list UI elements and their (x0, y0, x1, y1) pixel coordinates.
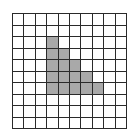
grid-cell (80, 25, 91, 37)
grid-cell (23, 25, 34, 37)
grid-cell (92, 71, 103, 83)
grid-cell (46, 13, 57, 25)
grid-cell-shaded (69, 59, 80, 71)
grid-cell (12, 36, 23, 48)
grid-cell (58, 117, 69, 129)
grid-cell (115, 59, 126, 71)
grid-cell (12, 13, 23, 25)
grid-cell (69, 48, 80, 60)
grid-cell (115, 48, 126, 60)
grid-cell (92, 48, 103, 60)
grid-cell (23, 71, 34, 83)
grid-cell (103, 13, 114, 25)
grid-cell (80, 13, 91, 25)
grid-cell (12, 105, 23, 117)
grid-cell (23, 48, 34, 60)
grid-cell (69, 117, 80, 129)
grid-cell (12, 25, 23, 37)
grid-cell (92, 94, 103, 106)
grid-cell (115, 25, 126, 37)
grid-cell-shaded (80, 82, 91, 94)
grid-cell (35, 25, 46, 37)
grid-cell (103, 36, 114, 48)
grid-cell (35, 48, 46, 60)
grid-cell (80, 36, 91, 48)
grid-cell (12, 48, 23, 60)
grid-cell-shaded (46, 82, 57, 94)
grid-cell-shaded (69, 82, 80, 94)
grid-cell (12, 94, 23, 106)
grid-cell (35, 117, 46, 129)
grid-cell (80, 48, 91, 60)
grid-cell (69, 25, 80, 37)
grid-cell-shaded (58, 48, 69, 60)
grid-cell-shaded (58, 59, 69, 71)
grid-cell (12, 82, 23, 94)
grid-cell (58, 25, 69, 37)
grid-cell-shaded (58, 82, 69, 94)
grid-cell (23, 36, 34, 48)
grid-cell (103, 25, 114, 37)
grid-cell (35, 82, 46, 94)
grid-cell (23, 105, 34, 117)
grid-cell (69, 36, 80, 48)
grid-cell (103, 82, 114, 94)
grid-cell (69, 105, 80, 117)
grid-cell (58, 13, 69, 25)
grid-cell (80, 105, 91, 117)
grid-cell (35, 105, 46, 117)
grid-cell-shaded (46, 48, 57, 60)
grid-cell (103, 94, 114, 106)
grid-cell (80, 94, 91, 106)
grid-cell (92, 25, 103, 37)
grid-cell (92, 36, 103, 48)
grid-cell (23, 59, 34, 71)
grid-cell (115, 105, 126, 117)
grid-cell (103, 48, 114, 60)
grid-cell (103, 71, 114, 83)
grid-cell (115, 117, 126, 129)
grid-cell (115, 13, 126, 25)
grid-cell (69, 94, 80, 106)
grid-cell-shaded (46, 59, 57, 71)
grid-cell-shaded (46, 71, 57, 83)
grid-cell (46, 25, 57, 37)
grid-cell (12, 71, 23, 83)
grid-cell (80, 117, 91, 129)
grid-cell (35, 59, 46, 71)
grid-cell (58, 105, 69, 117)
grid-cell (92, 105, 103, 117)
grid-cell (103, 117, 114, 129)
grid-cell (58, 94, 69, 106)
grid-cell (23, 82, 34, 94)
grid-cell (23, 13, 34, 25)
grid-cell (35, 36, 46, 48)
grid-cell (12, 117, 23, 129)
grid-cell-shaded (69, 71, 80, 83)
grid-cell (103, 105, 114, 117)
grid-cell-shaded (92, 82, 103, 94)
grid-cell (92, 117, 103, 129)
grid-cell-shaded (58, 71, 69, 83)
grid-cell (46, 105, 57, 117)
grid-cell (92, 59, 103, 71)
grid-cell (115, 71, 126, 83)
grid-cell (12, 59, 23, 71)
grid-cell (80, 59, 91, 71)
grid-cell (46, 94, 57, 106)
grid-cell (115, 94, 126, 106)
grid-cell (23, 117, 34, 129)
grid-cell (35, 94, 46, 106)
grid-cell (46, 117, 57, 129)
grid-cell (115, 82, 126, 94)
grid-cell (58, 36, 69, 48)
square-grid (12, 13, 127, 129)
grid-cell-shaded (46, 36, 57, 48)
grid-cell (115, 36, 126, 48)
grid-cell (103, 59, 114, 71)
grid-cell-shaded (80, 71, 91, 83)
grid-cell (69, 13, 80, 25)
grid-cell (35, 13, 46, 25)
grid-cell (92, 13, 103, 25)
grid-cell (35, 71, 46, 83)
